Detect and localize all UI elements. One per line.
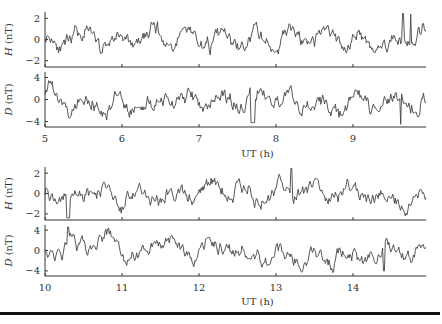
x-tick-label: 12 [193, 282, 206, 293]
x-tick-label: 14 [347, 282, 360, 293]
h-trace [45, 13, 426, 54]
y-axis-label: D (nT) [3, 83, 14, 116]
y-tick-label: −2 [25, 208, 40, 219]
h-trace [45, 168, 426, 218]
x-tick-label: 6 [119, 133, 125, 144]
y-tick-label: 0 [34, 94, 40, 105]
x-tick-label: 8 [273, 133, 279, 144]
d-trace [45, 227, 426, 273]
x-axis-label: UT (h) [241, 296, 274, 307]
y-tick-label: 2 [34, 168, 40, 179]
y-axis-label: D (nT) [3, 234, 14, 267]
x-tick-label: 10 [39, 282, 52, 293]
y-tick-label: 0 [34, 245, 40, 256]
divider-rule [0, 312, 440, 315]
x-axis-label: UT (h) [241, 148, 274, 159]
y-axis-label: H (nT) [3, 23, 14, 57]
y-tick-label: −2 [25, 55, 40, 66]
y-tick-label: −4 [25, 116, 40, 127]
y-tick-label: 0 [34, 188, 40, 199]
y-tick-label: −4 [25, 265, 40, 276]
x-tick-label: 5 [42, 133, 48, 144]
x-tick-label: 7 [196, 133, 202, 144]
y-tick-label: 0 [34, 34, 40, 45]
x-tick-label: 13 [270, 282, 283, 293]
y-axis-label: H (nT) [3, 177, 14, 211]
y-tick-label: 2 [34, 13, 40, 24]
d-trace [45, 81, 426, 125]
y-tick-label: 4 [34, 225, 40, 236]
y-tick-label: 4 [34, 72, 40, 83]
x-tick-label: 11 [116, 282, 129, 293]
x-tick-label: 9 [350, 133, 356, 144]
magnetometer-figure: 20−2H (nT)40−4D (nT)56789UT (h)20−2H (nT… [0, 0, 442, 324]
